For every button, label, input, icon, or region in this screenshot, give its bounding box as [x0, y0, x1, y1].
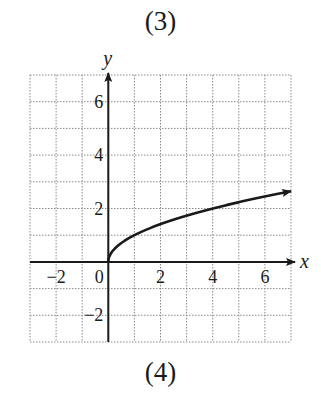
grid-lines	[30, 75, 291, 342]
y-tick-label: −2	[84, 305, 103, 325]
series-line	[108, 191, 291, 262]
x-tick-label: 0	[95, 267, 104, 287]
y-tick-label: 4	[94, 145, 103, 165]
y-tick-label: 6	[94, 92, 103, 112]
y-axis-label: y	[101, 47, 112, 70]
y-tick-label: 2	[94, 199, 103, 219]
figure-label-bottom: (4)	[0, 357, 321, 388]
x-tick-label: −2	[47, 267, 66, 287]
x-tick-label: 2	[156, 267, 165, 287]
axes: xy	[30, 47, 309, 342]
x-tick-label: 6	[260, 267, 269, 287]
x-tick-label: 4	[208, 267, 217, 287]
chart-plot: xy −20246−2246	[0, 0, 321, 408]
curve-sqrt	[108, 191, 291, 262]
x-axis-label: x	[299, 250, 309, 272]
tick-labels: −20246−2246	[47, 92, 270, 326]
